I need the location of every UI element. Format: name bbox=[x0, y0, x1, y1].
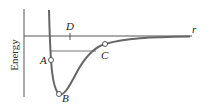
energy-axis-label: Energy bbox=[8, 39, 20, 71]
point-a-marker bbox=[49, 58, 54, 63]
energy-diagram: Energy r D A B C bbox=[0, 0, 207, 107]
point-d-label: D bbox=[65, 20, 74, 32]
point-b-label: B bbox=[62, 92, 69, 104]
point-b-marker bbox=[57, 92, 62, 97]
point-c-label: C bbox=[101, 49, 109, 61]
point-a-label: A bbox=[39, 54, 47, 66]
r-axis-label: r bbox=[192, 23, 197, 35]
point-c-marker bbox=[103, 42, 108, 47]
